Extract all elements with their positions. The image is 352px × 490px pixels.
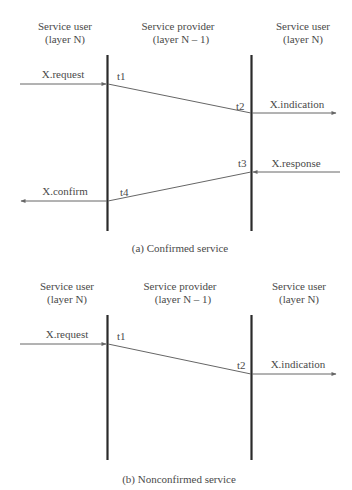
confirm-label: X.confirm [42, 185, 88, 197]
header-left-line2: (layer N) [45, 33, 85, 46]
indication-label: X.indication [271, 358, 326, 370]
header-middle-line1: Service provider [142, 20, 215, 32]
t1-label: t1 [117, 70, 126, 82]
t4-label: t4 [120, 186, 129, 198]
header-middle-line2: (layer N – 1) [153, 33, 210, 46]
header-right-line2: (layer N) [279, 293, 319, 306]
t3-label: t3 [238, 157, 247, 169]
header-left-line2: (layer N) [47, 293, 87, 306]
provider-transit-line-2 [108, 172, 251, 201]
header-left-line1: Service user [40, 280, 94, 292]
header-right-line1: Service user [276, 20, 330, 32]
header-right-line1: Service user [272, 280, 326, 292]
t2-label: t2 [237, 359, 246, 371]
nonconfirmed-service-diagram: Service user (layer N) Service provider … [20, 280, 336, 486]
t1-label: t1 [117, 330, 126, 342]
service-primitives-figure: Service user (layer N) Service provider … [0, 0, 352, 490]
indication-label: X.indication [270, 98, 325, 110]
caption-confirmed: (a) Confirmed service [132, 242, 229, 255]
header-left-line1: Service user [38, 20, 92, 32]
confirmed-service-diagram: Service user (layer N) Service provider … [20, 20, 340, 255]
request-label: X.request [46, 328, 88, 340]
header-right-line2: (layer N) [283, 33, 323, 46]
t2-label: t2 [236, 100, 245, 112]
header-middle-line1: Service provider [144, 280, 217, 292]
request-label: X.request [42, 68, 84, 80]
provider-transit-line-1 [108, 84, 251, 113]
caption-nonconfirmed: (b) Nonconfirmed service [122, 473, 236, 486]
header-middle-line2: (layer N – 1) [155, 293, 212, 306]
provider-transit-line [108, 344, 251, 374]
response-label: X.response [271, 157, 320, 169]
